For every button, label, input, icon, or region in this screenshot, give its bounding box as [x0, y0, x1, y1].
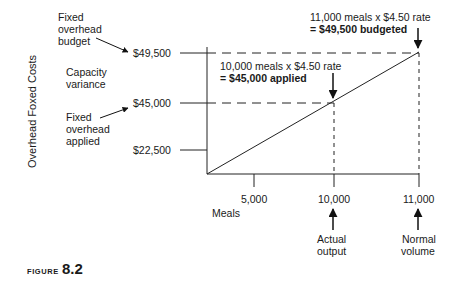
figure-number: 8.2: [62, 260, 83, 277]
actual-output-label-1: Actual: [317, 233, 346, 245]
normal-volume-label-2: volume: [401, 245, 435, 257]
x-tick-11000: 11,000: [403, 193, 434, 205]
applied-result: = $45,000 applied: [220, 72, 307, 84]
capacity-variance-label-1: Capacity: [66, 66, 107, 78]
applied-formula: 10,000 meals x $4.50 rate: [220, 60, 341, 72]
x-axis-label: Meals: [212, 207, 240, 219]
fixed-budget-label-1: Fixed: [58, 11, 84, 23]
figure-word: FIGURE: [27, 267, 59, 276]
applied-arrow-icon: [100, 108, 128, 118]
x-tick-5000: 5,000: [241, 193, 267, 205]
fixed-applied-label-2: overhead: [66, 123, 110, 135]
fixed-applied-label-3: applied: [66, 135, 100, 147]
fixed-budget-label-3: budget: [58, 35, 90, 47]
actual-output-label-2: output: [317, 245, 346, 257]
budgeted-formula: 11,000 meals x $4.50 rate: [310, 11, 431, 23]
fixed-applied-label-1: Fixed: [66, 111, 92, 123]
capacity-variance-label-2: variance: [66, 78, 106, 90]
fixed-budget-label-2: overhead: [58, 23, 102, 35]
y-tick-22500: $22,500: [133, 144, 171, 156]
x-tick-10000: 10,000: [318, 193, 350, 205]
budget-arrow-icon: [96, 38, 128, 52]
budgeted-result: = $49,500 budgeted: [310, 23, 407, 35]
normal-volume-label-1: Normal: [402, 233, 436, 245]
y-axis-label: Overhead Foxed Costs: [26, 55, 38, 168]
y-tick-45000: $45,000: [133, 97, 171, 109]
y-tick-49500: $49,500: [133, 47, 171, 59]
